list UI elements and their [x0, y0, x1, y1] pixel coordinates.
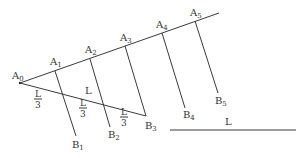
label-B5: B5 — [215, 95, 227, 108]
upper-ray — [20, 13, 219, 83]
label-B1: B1 — [72, 139, 84, 152]
fraction-label-1: L 3 — [34, 89, 42, 110]
label-B4: B4 — [183, 109, 195, 122]
fraction-label-2: L 3 — [79, 98, 87, 119]
label-A0: A0 — [11, 70, 24, 83]
parallel-line-A2-B2 — [90, 59, 110, 127]
svg-text:L: L — [35, 89, 41, 99]
fraction-label-3: L 3 — [120, 107, 128, 128]
svg-text:3: 3 — [35, 100, 41, 110]
parallel-line-A4-B4 — [162, 33, 185, 108]
parallel-line-A3-B3 — [125, 46, 146, 116]
svg-text:L: L — [121, 107, 127, 117]
svg-text:L: L — [80, 98, 86, 108]
label-A1: A1 — [49, 56, 62, 69]
label-B3: B3 — [145, 120, 157, 133]
parallel-line-A1-B1 — [55, 71, 76, 136]
svg-text:3: 3 — [121, 118, 127, 128]
parallel-line-A5-B5 — [195, 21, 218, 93]
label-A2: A2 — [84, 44, 97, 57]
label-B2: B2 — [108, 129, 120, 142]
label-A3: A3 — [119, 32, 132, 45]
label-segment-L: L — [85, 85, 92, 96]
svg-text:3: 3 — [80, 109, 86, 119]
label-A4: A4 — [155, 19, 168, 32]
label-reference-L: L — [225, 116, 232, 127]
label-A5: A5 — [189, 7, 202, 20]
geometry-diagram: A0 A1 A2 A3 A4 A5 B1 B2 B3 B4 B5 L L 3 L… — [0, 0, 308, 158]
